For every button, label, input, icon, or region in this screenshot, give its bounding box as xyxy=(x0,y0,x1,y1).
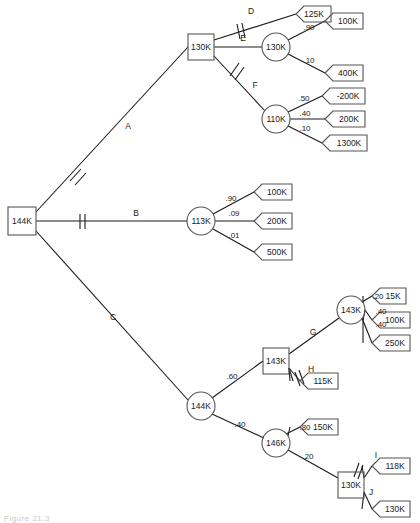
terminal-label-115k: 115K xyxy=(313,376,333,386)
branch-label-f: F xyxy=(252,80,257,90)
branch-label-g: G xyxy=(310,327,317,337)
branch-label-a: A xyxy=(125,121,131,131)
branch-label-j: J xyxy=(369,487,373,497)
prune-mark-I xyxy=(354,463,359,477)
terminal-label-400k: 400K xyxy=(338,68,358,78)
chance-node-g-label: 143K xyxy=(341,305,361,315)
branch-label-h: H xyxy=(308,364,314,374)
prune-mark-F xyxy=(230,63,239,76)
prune-mark-H xyxy=(295,372,300,386)
branch-label-e: E xyxy=(240,33,246,43)
chance-node-c-label: 144K xyxy=(191,401,211,411)
edge-A xyxy=(36,47,188,212)
prob-bot-20: .20 xyxy=(302,452,314,461)
terminal-label-118k: 118K xyxy=(385,461,405,471)
decision-node-g-label: 143K xyxy=(266,356,286,366)
branch-label-b: B xyxy=(133,208,139,218)
terminal-label-1300k: 1300K xyxy=(337,138,362,148)
chance-node-f-label: 110K xyxy=(266,114,286,124)
edge-80 xyxy=(288,427,290,436)
prob-f-40: .40 xyxy=(299,109,311,118)
prob-e-10: .10 xyxy=(303,56,315,65)
decision-nodes: 144K 130K 143K 130K xyxy=(8,34,364,498)
terminal-label-200k-b: 200K xyxy=(267,216,287,226)
chance-node-e-label: 130K xyxy=(266,42,286,52)
prob-g-20: .20 xyxy=(372,292,384,301)
probability-labels: .90 .10 .50 .40 .10 .90 .09 .01 .60 .40 … xyxy=(225,23,387,461)
terminal-label-100k-b: 100K xyxy=(267,187,287,197)
prob-g-40b: .40 xyxy=(375,320,387,329)
terminal-label-100k-e: 100K xyxy=(338,16,358,26)
terminal-label-200k-f: 200K xyxy=(339,114,359,124)
prob-e-90: .90 xyxy=(303,23,315,32)
edge-G-40a-line xyxy=(365,310,372,320)
edge-I-line xyxy=(364,466,372,478)
prob-c-40: .40 xyxy=(234,420,246,429)
terminal-label-130k-j: 130K xyxy=(385,504,405,514)
prob-g-40a: .40 xyxy=(375,307,387,316)
prob-f-50: .50 xyxy=(298,94,310,103)
terminal-label-15k: 15K xyxy=(385,291,400,301)
terminal-label-500k: 500K xyxy=(267,247,287,257)
branch-label-c: C xyxy=(110,312,116,322)
figure-caption: Figure 21.3 xyxy=(4,514,50,523)
branch-label-i: I xyxy=(375,450,377,460)
terminal-label-100k-g: 100K xyxy=(385,315,405,325)
chance-node-b-label: 113K xyxy=(191,216,211,226)
decision-node-top-label: 130K xyxy=(191,42,211,52)
prob-f-10: .10 xyxy=(299,124,311,133)
chance-node-bot-label: 146K xyxy=(266,438,286,448)
prob-b-90: .90 xyxy=(225,194,237,203)
terminal-label-150k: 150K xyxy=(313,422,333,432)
prob-bot-80: .80 xyxy=(299,423,311,432)
prune-mark-F2 xyxy=(235,67,244,80)
decision-node-root-label: 144K xyxy=(12,216,32,226)
branch-label-d: D xyxy=(248,6,254,16)
prob-b-09: .09 xyxy=(228,209,240,218)
terminal-label-125k: 125K xyxy=(304,9,324,19)
prune-mark-A xyxy=(70,169,81,181)
prob-b-01: .01 xyxy=(228,231,240,240)
decision-node-ij-label: 130K xyxy=(341,480,361,490)
prob-c-60: .60 xyxy=(226,372,238,381)
terminal-label-250k: 250K xyxy=(385,338,405,348)
prune-mark-A2 xyxy=(75,173,86,185)
edge-D xyxy=(214,14,296,40)
edge-80-line xyxy=(286,427,300,434)
terminal-label-neg200k: -200K xyxy=(337,91,360,101)
decision-tree-diagram: 125K 100K 400K -200K 200K 1300K 100K 200… xyxy=(0,0,420,523)
